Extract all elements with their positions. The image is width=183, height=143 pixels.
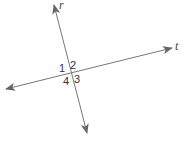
line-t-right-ray: [71, 48, 173, 73]
angle-4-label: 4: [63, 75, 69, 87]
line-t-label: t: [175, 39, 179, 53]
line-t-left-ray: [6, 73, 71, 89]
angle-2-label: 2: [70, 59, 76, 71]
line-r-upper-ray: [54, 5, 71, 69]
line-r-label: r: [59, 0, 64, 12]
intersecting-lines-diagram: r t 1 2 3 4: [0, 0, 183, 143]
angle-3-label: 3: [74, 73, 80, 85]
angle-1-label: 1: [59, 62, 65, 74]
line-t: [6, 48, 172, 89]
